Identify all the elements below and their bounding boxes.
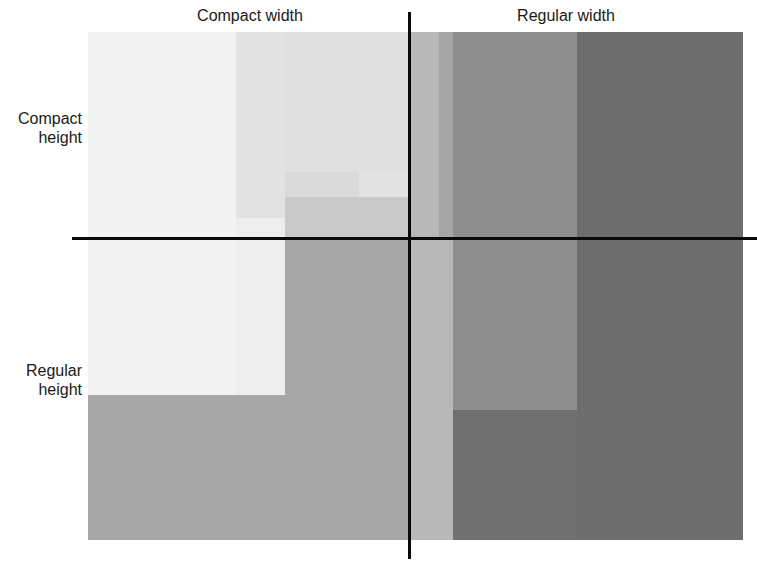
- region-regular-width-mid: [453, 32, 577, 410]
- region-compact-width-upper-band: [285, 32, 408, 172]
- horizontal-axis-divider: [72, 237, 757, 240]
- region-regular-width-dark: [577, 32, 743, 540]
- region-center-strip-top: [439, 32, 453, 238]
- row-label-compact-height-line2: height: [2, 128, 82, 147]
- column-label-compact-width: Compact width: [150, 6, 350, 25]
- vertical-axis-divider: [408, 12, 411, 559]
- row-label-compact-height: Compact height: [2, 109, 82, 147]
- region-compact-width-step: [285, 197, 408, 239]
- region-compact-width-compact-height-light: [88, 32, 236, 395]
- row-label-regular-height-line1: Regular: [2, 361, 82, 380]
- row-label-regular-height: Regular height: [2, 361, 82, 399]
- region-compact-width-light-extension: [236, 218, 285, 395]
- column-label-regular-width: Regular width: [466, 6, 666, 25]
- row-label-regular-height-line2: height: [2, 380, 82, 399]
- row-label-compact-height-line1: Compact: [2, 109, 82, 128]
